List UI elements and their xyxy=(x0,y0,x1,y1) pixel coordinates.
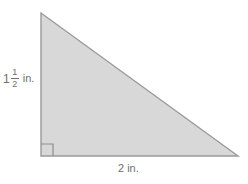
height-unit: in. xyxy=(19,73,35,84)
height-fraction-denominator: 2 xyxy=(11,79,18,89)
height-fraction: 1 2 xyxy=(11,68,19,89)
height-fraction-numerator: 1 xyxy=(11,68,18,78)
right-triangle-figure xyxy=(0,0,248,184)
height-whole-number: 1 xyxy=(3,73,11,85)
height-label: 1 1 2 in. xyxy=(3,68,34,89)
triangle-shape xyxy=(41,13,238,156)
base-label: 2 in. xyxy=(118,163,139,174)
